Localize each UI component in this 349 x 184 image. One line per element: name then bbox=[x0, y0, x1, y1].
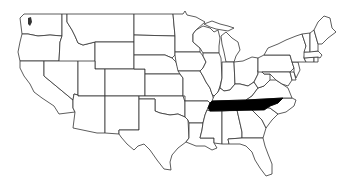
states-layer: WashingtonOregonCaliforniaIdahoNevadaMon… bbox=[18, 11, 336, 176]
state-kansas[interactable]: Kansas bbox=[145, 74, 183, 96]
state-north-dakota[interactable]: North Dakota bbox=[134, 14, 175, 36]
state-oregon[interactable]: Oregon bbox=[18, 34, 62, 61]
state-south-dakota[interactable]: South Dakota bbox=[134, 35, 175, 58]
state-iowa[interactable]: Iowa bbox=[175, 52, 206, 71]
state-wyoming[interactable]: Wyoming bbox=[95, 42, 134, 69]
state-maine[interactable]: Maine bbox=[314, 16, 336, 44]
state-washington[interactable]: Washington bbox=[20, 14, 62, 36]
state-florida[interactable]: Florida bbox=[228, 138, 272, 176]
state-new-mexico[interactable]: New Mexico bbox=[105, 96, 139, 134]
state-michigan[interactable]: Michigan bbox=[221, 32, 240, 62]
us-states-map: WashingtonOregonCaliforniaIdahoNevadaMon… bbox=[0, 0, 349, 184]
state-pennsylvania[interactable]: Pennsylvania bbox=[258, 55, 294, 72]
state-arizona[interactable]: Arizona bbox=[73, 94, 105, 133]
state-rhode-island[interactable]: Rhode Island bbox=[314, 57, 318, 62]
state-montana[interactable]: Montana bbox=[67, 14, 134, 45]
state-colorado[interactable]: Colorado bbox=[105, 69, 145, 96]
